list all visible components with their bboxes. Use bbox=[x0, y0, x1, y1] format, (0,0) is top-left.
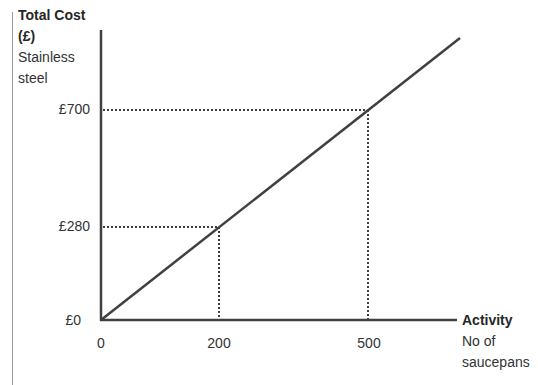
x-axis-subtitle-2: saucepans bbox=[462, 352, 530, 373]
x-tick-0: 0 bbox=[81, 333, 121, 354]
x-axis-title: Activity bbox=[462, 310, 513, 331]
total-cost-line bbox=[101, 38, 460, 320]
x-axis-subtitle-1: No of bbox=[462, 331, 495, 352]
x-tick-200: 200 bbox=[199, 333, 239, 354]
y-axis-subtitle-1: Stainless bbox=[18, 47, 75, 68]
y-tick-700: £700 bbox=[30, 99, 90, 120]
y-tick-280: £280 bbox=[30, 216, 90, 237]
y-tick-0: £0 bbox=[21, 310, 81, 331]
y-axis-subtitle-2: steel bbox=[18, 68, 48, 89]
y-axis-title-unit: (£) bbox=[18, 26, 35, 47]
x-tick-500: 500 bbox=[349, 333, 389, 354]
y-axis-title: Total Cost bbox=[18, 5, 85, 26]
